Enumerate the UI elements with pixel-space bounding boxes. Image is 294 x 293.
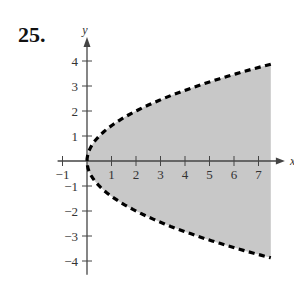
x-tick-label: 2 <box>133 167 140 182</box>
y-tick-label: −3 <box>64 229 78 244</box>
graph: −11234567−4−3−2−11234xy <box>0 0 294 293</box>
y-tick-label: 4 <box>72 54 79 69</box>
y-tick-label: 3 <box>72 79 79 94</box>
y-tick-label: −4 <box>64 254 78 269</box>
x-axis-arrow-icon <box>276 158 285 165</box>
y-tick-label: 1 <box>72 129 79 144</box>
x-tick-label: 4 <box>182 167 189 182</box>
y-tick-label: 2 <box>72 104 79 119</box>
y-tick-label: −1 <box>64 179 78 194</box>
y-axis-arrow-icon <box>84 37 91 47</box>
x-tick-label: 3 <box>157 167 164 182</box>
x-tick-label: 5 <box>206 167 213 182</box>
x-tick-label: 6 <box>231 167 238 182</box>
x-tick-label: 7 <box>255 167 262 182</box>
x-tick-label: 1 <box>108 167 115 182</box>
x-axis-label: x <box>289 154 294 168</box>
y-tick-label: −2 <box>64 204 78 219</box>
y-axis-label: y <box>81 23 88 37</box>
